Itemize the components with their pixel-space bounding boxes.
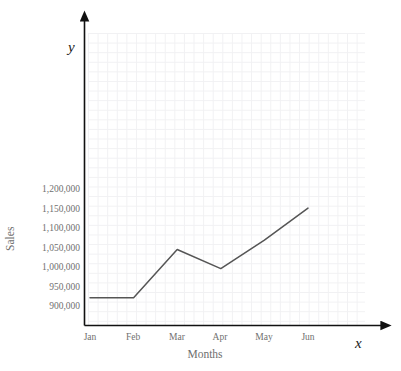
y-axis-letter: y bbox=[68, 40, 75, 55]
line-chart: 1,200,000 1,150,000 1,100,000 1,050,000 … bbox=[0, 0, 401, 371]
series-line bbox=[90, 208, 308, 298]
x-tick-label-jan: Jan bbox=[67, 333, 113, 343]
y-tick-label: 1,200,000 bbox=[4, 185, 80, 195]
y-tick-label: 950,000 bbox=[4, 283, 80, 293]
x-axis-letter: x bbox=[355, 336, 362, 351]
x-tick-label-apr: Apr bbox=[197, 333, 243, 343]
y-axis-title: Sales bbox=[5, 211, 17, 267]
x-tick-label-may: May bbox=[241, 333, 287, 343]
x-tick-label-jun: Jun bbox=[285, 333, 331, 343]
x-tick-label-feb: Feb bbox=[110, 333, 156, 343]
y-tick-labels: 1,200,000 1,150,000 1,100,000 1,050,000 … bbox=[0, 0, 80, 371]
x-tick-label-mar: Mar bbox=[154, 333, 200, 343]
x-axis-title: Months bbox=[150, 349, 260, 361]
y-tick-label: 900,000 bbox=[4, 302, 80, 312]
